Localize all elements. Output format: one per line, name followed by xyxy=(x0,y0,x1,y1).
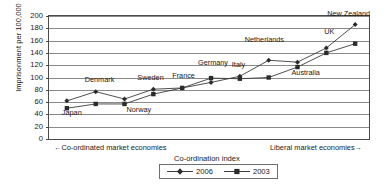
y-axis-tick-200: 200 xyxy=(17,12,43,20)
legend-item-2003: 2003 xyxy=(224,167,270,176)
legend-label-2003: 2003 xyxy=(253,168,270,176)
data-point-2006-Sweden xyxy=(151,87,156,92)
point-label-new-zealand: New Zealand xyxy=(327,10,370,17)
data-point-2006-Norway xyxy=(122,97,127,102)
data-point-2006-Japan xyxy=(64,98,69,103)
y-axis-tick-120: 120 xyxy=(17,61,43,69)
y-axis-tick-40: 40 xyxy=(17,110,43,118)
legend-marker-diamond-icon xyxy=(167,167,193,176)
plot-area: JapanDenmarkNorwaySwedenFranceGermanyIta… xyxy=(48,15,370,140)
data-point-2003-UK xyxy=(324,51,328,55)
y-axis-tick-80: 80 xyxy=(17,86,43,94)
chart-legend: 2006 2003 xyxy=(159,164,278,179)
y-axis-tick-100: 100 xyxy=(17,74,43,82)
x-axis-title: Co-ordination index xyxy=(174,154,240,163)
y-axis-tick-0: 0 xyxy=(17,135,43,143)
point-label-netherlands: Netherlands xyxy=(245,36,284,43)
data-point-2003-Italy xyxy=(238,77,242,81)
data-point-2003-Denmark xyxy=(94,102,98,106)
data-point-2003-Netherlands xyxy=(266,75,270,79)
tick-mark xyxy=(46,139,49,140)
y-axis-tick-160: 160 xyxy=(17,37,43,45)
data-point-2003-New Zealand xyxy=(353,41,357,45)
data-point-2006-Denmark xyxy=(93,89,98,94)
point-label-sweden: Sweden xyxy=(137,74,163,81)
legend-marker-square-icon xyxy=(224,167,250,176)
data-point-2006-Netherlands xyxy=(266,58,271,63)
x-axis-note-right: Liberal market economies→ xyxy=(270,143,362,152)
legend-label-2006: 2006 xyxy=(196,168,213,176)
data-point-2006-Australia xyxy=(295,60,300,65)
y-axis-tick-20: 20 xyxy=(17,123,43,131)
point-label-italy: Italy xyxy=(232,61,245,68)
data-point-2003-Sweden xyxy=(151,92,155,96)
point-label-australia: Australia xyxy=(292,69,320,76)
y-axis-tick-140: 140 xyxy=(17,49,43,57)
imprisonment-line-chart: Imprisonment per 100,000 200180160140120… xyxy=(0,0,385,190)
data-point-2006-Germany xyxy=(209,80,214,85)
point-label-france: France xyxy=(172,72,195,79)
point-label-uk: UK xyxy=(324,28,334,35)
data-point-2003-France xyxy=(180,86,184,90)
y-axis-tick-60: 60 xyxy=(17,98,43,106)
y-axis-tick-180: 180 xyxy=(17,24,43,32)
x-axis-note-left: ←Co-ordinated market economies xyxy=(54,143,167,152)
data-point-2003-Germany xyxy=(209,76,213,80)
point-label-japan: Japan xyxy=(62,109,82,116)
point-label-denmark: Denmark xyxy=(85,76,115,83)
point-label-germany: Germany xyxy=(198,59,228,66)
point-label-norway: Norway xyxy=(127,106,152,113)
legend-item-2006: 2006 xyxy=(167,167,213,176)
